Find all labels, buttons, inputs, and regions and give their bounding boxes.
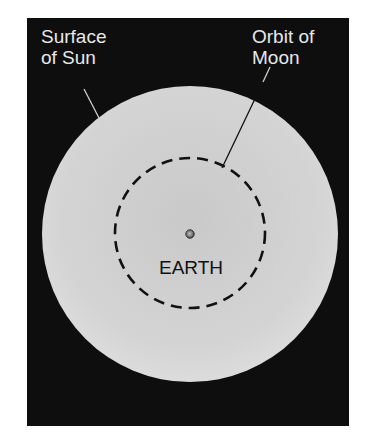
earth-dot: [186, 230, 194, 238]
moon-orbit-label: Orbit of Moon: [252, 26, 314, 68]
orbit-label-line2: Moon: [252, 47, 314, 68]
sun-label-line1: Surface: [41, 26, 106, 47]
sun-surface-label: Surface of Sun: [41, 26, 106, 68]
orbit-leader-line-top: [263, 67, 270, 82]
earth-label: EARTH: [150, 257, 232, 279]
sun-leader-line: [84, 89, 99, 118]
orbit-label-line1: Orbit of: [252, 26, 314, 47]
sun-label-line2: of Sun: [41, 47, 106, 68]
